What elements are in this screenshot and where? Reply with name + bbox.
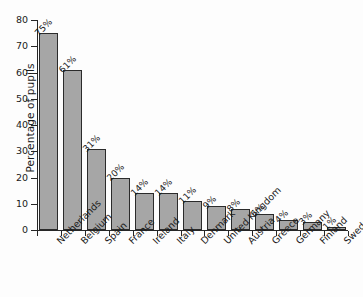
y-axis-tick-label: 10 — [0, 199, 28, 209]
x-axis-category-label: Austria — [246, 239, 253, 246]
bar — [39, 33, 58, 230]
y-axis-tick-label: 30 — [0, 146, 28, 156]
x-axis-category-label: Greece — [270, 239, 277, 246]
x-axis-category-label: Sweden — [342, 239, 349, 246]
x-axis-category-label: Germany — [294, 239, 301, 246]
y-axis-tick-label: 60 — [0, 68, 28, 78]
y-axis-tick-label: 20 — [0, 173, 28, 183]
x-axis-category-label: Finland — [318, 239, 325, 246]
x-axis-category-label: Spain — [103, 239, 110, 246]
x-axis-tick — [37, 231, 38, 236]
x-axis-category-label: Belgium — [79, 239, 86, 246]
x-axis-category-label: Denmark — [199, 239, 206, 246]
x-axis-category-label: United Kingdom — [222, 239, 229, 246]
bar-chart: Percentage of pupils 01020304050607080 7… — [0, 0, 363, 297]
y-axis-tick-label: 0 — [0, 225, 28, 235]
y-axis-tick-label: 40 — [0, 120, 28, 130]
x-axis-category-label: Netherlands — [55, 239, 62, 246]
x-axis-category-label: Italy — [175, 239, 182, 246]
y-axis-tick-label: 50 — [0, 94, 28, 104]
bar — [63, 70, 82, 230]
x-axis-category-label: Ireland — [151, 239, 158, 246]
x-axis-category-label: France — [127, 239, 134, 246]
y-axis-line — [37, 20, 38, 231]
y-axis-tick-label: 70 — [0, 41, 28, 51]
y-axis-tick-label: 80 — [0, 15, 28, 25]
